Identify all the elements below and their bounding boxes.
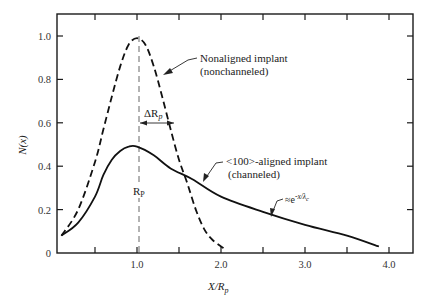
delta-rp-arrow [140,121,174,126]
plot-frame [57,14,413,253]
y-tick-label: 1.0 [38,31,51,42]
aligned-label-line2: (channeled) [228,168,280,181]
nonaligned-label-line1: Nonaligned implant [200,52,288,64]
y-tick-label: 0 [46,248,51,259]
exp-leader-arrow [270,199,283,217]
x-axis-label: X/Rp [207,280,229,295]
x-tick-label: 1.0 [130,259,143,270]
nonaligned-leader-arrow [163,58,197,75]
aligned-label-line1: <100>-aligned implant [226,155,327,167]
y-axis-label: N(x) [16,135,29,156]
y-tick-label: 0.4 [38,161,52,172]
y-tick-label: 0.2 [38,205,51,216]
y-tick-label: 0.6 [38,118,51,129]
y-tick-label: 0.8 [38,74,51,85]
x-axis-tick-labels: 1.02.03.04.0 [130,259,395,270]
aligned-implant-curve [61,146,379,247]
chart: 1.02.03.04.0 00.20.40.60.81.0 RP ΔRp Non… [0,0,429,303]
x-tick-label: 2.0 [214,259,227,270]
x-tick-label: 4.0 [382,259,395,270]
y-axis-tick-labels: 00.20.40.60.81.0 [38,31,52,259]
x-tick-label: 3.0 [298,259,311,270]
nonaligned-label-line2: (nonchanneled) [200,65,269,78]
aligned-leader-arrow [203,162,223,182]
delta-rp-label: ΔRp [144,107,162,121]
exp-approx-label: ≈e-x/λc [285,192,309,205]
